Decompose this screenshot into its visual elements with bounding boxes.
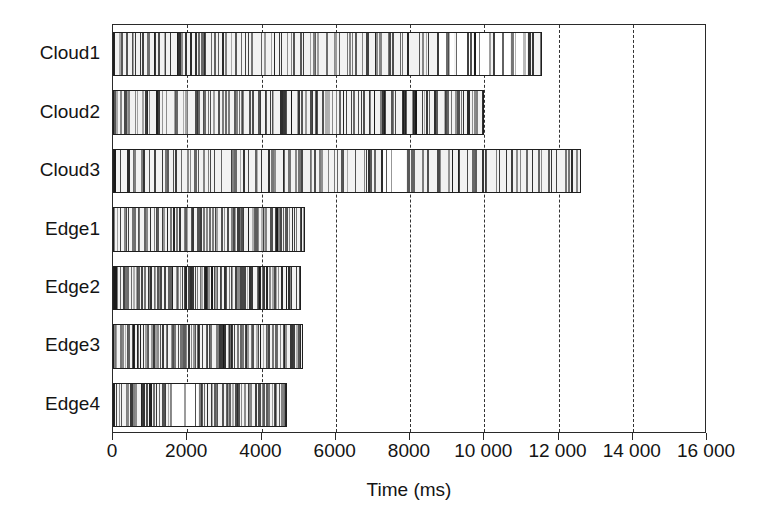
event-tick <box>452 150 453 192</box>
x-tick-label-0: 0 <box>107 441 118 460</box>
event-tick <box>116 384 117 426</box>
x-tick-label-2000: 2000 <box>165 441 207 460</box>
event-tick <box>366 33 369 75</box>
event-tick <box>185 33 187 75</box>
event-tick <box>412 91 414 133</box>
event-tick <box>220 267 221 309</box>
event-tick <box>142 33 144 75</box>
event-tick <box>157 208 159 250</box>
event-tick <box>407 33 408 75</box>
event-tick <box>257 150 258 192</box>
event-tick <box>260 325 261 367</box>
event-tick <box>212 384 213 426</box>
event-tick <box>374 91 376 133</box>
event-tick <box>303 208 305 250</box>
event-tick <box>214 33 216 75</box>
event-tick <box>185 267 187 309</box>
event-tick <box>201 33 203 75</box>
event-tick <box>556 150 557 192</box>
event-tick <box>264 33 266 75</box>
event-tick <box>221 150 222 192</box>
event-tick <box>283 91 285 133</box>
event-tick <box>475 150 477 192</box>
event-tick <box>115 325 116 367</box>
event-tick <box>200 208 202 250</box>
event-tick <box>135 33 136 75</box>
event-tick <box>227 208 229 250</box>
event-tick <box>339 33 341 75</box>
x-tick-8000 <box>409 433 410 440</box>
event-tick <box>243 150 245 192</box>
event-tick <box>419 33 420 75</box>
event-tick <box>463 91 464 133</box>
event-tick <box>293 325 295 367</box>
x-tick-label-8000: 8000 <box>388 441 430 460</box>
event-tick <box>206 208 208 250</box>
event-tick <box>120 208 121 250</box>
event-tick <box>291 91 292 133</box>
event-tick <box>353 91 355 133</box>
event-tick <box>224 208 226 250</box>
event-tick <box>411 150 413 192</box>
event-tick <box>571 150 573 192</box>
event-tick <box>214 150 215 192</box>
event-tick <box>131 267 132 309</box>
event-tick <box>121 384 122 426</box>
event-tick <box>422 33 424 75</box>
event-tick <box>251 384 252 426</box>
event-tick <box>143 384 144 426</box>
event-tick <box>366 150 367 192</box>
event-tick <box>213 91 215 133</box>
event-tick <box>384 91 386 133</box>
event-tick <box>173 208 175 250</box>
event-tick <box>140 33 141 75</box>
event-tick <box>200 267 201 309</box>
event-tick <box>532 33 534 75</box>
event-tick <box>364 150 366 192</box>
timeline-bar-cloud2 <box>113 90 484 134</box>
event-tick <box>143 325 144 367</box>
event-tick <box>538 150 540 192</box>
event-tick <box>422 150 423 192</box>
event-tick <box>346 91 347 133</box>
event-tick <box>326 33 328 75</box>
event-tick <box>361 91 362 133</box>
event-tick <box>195 33 197 75</box>
event-tick <box>181 150 182 192</box>
event-tick <box>336 91 337 133</box>
event-tick <box>146 208 148 250</box>
event-tick <box>268 384 270 426</box>
timeline-bar-cloud1 <box>113 32 542 76</box>
event-tick <box>369 91 371 133</box>
event-tick <box>137 325 139 367</box>
event-tick <box>389 33 391 75</box>
event-tick <box>489 33 491 75</box>
event-tick <box>175 150 176 192</box>
x-tick-2000 <box>186 433 187 440</box>
event-tick <box>162 208 164 250</box>
event-tick <box>176 208 177 250</box>
event-tick <box>493 33 495 75</box>
event-tick <box>207 384 208 426</box>
event-tick <box>461 91 462 133</box>
event-tick <box>303 33 304 75</box>
event-tick <box>208 91 209 133</box>
event-tick <box>149 91 150 133</box>
event-tick <box>343 150 344 192</box>
x-axis-tick-labels: 0200040006000800010 00012 00014 00016 00… <box>0 441 766 469</box>
y-axis-label-cloud3: Cloud3 <box>0 160 100 179</box>
event-tick <box>231 325 233 367</box>
event-tick <box>135 91 136 133</box>
event-tick <box>422 91 423 133</box>
event-tick <box>265 91 266 133</box>
event-tick <box>427 150 429 192</box>
event-tick <box>251 267 253 309</box>
x-tick-4000 <box>261 433 262 440</box>
event-tick <box>218 33 219 75</box>
event-tick <box>520 150 522 192</box>
event-tick <box>177 267 179 309</box>
event-tick <box>286 267 287 309</box>
event-tick <box>279 384 280 426</box>
event-tick <box>171 325 173 367</box>
event-tick <box>242 325 244 367</box>
